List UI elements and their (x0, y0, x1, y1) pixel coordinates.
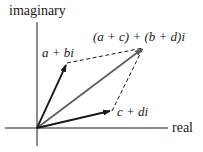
real-axis-label: real (172, 120, 193, 136)
dashed-edge-z2-to-sum (112, 48, 143, 111)
vector-c-di-label: c + di (117, 104, 148, 120)
imaginary-axis-label: imaginary (9, 3, 66, 19)
vector-sum-label: (a + c) + (b + d)i (93, 29, 185, 45)
vector-a-bi-arrow (37, 65, 66, 128)
dashed-edge-z1-to-sum (67, 48, 143, 63)
vector-a-bi-label: a + bi (42, 45, 74, 61)
complex-addition-diagram: imaginary real a + bi c + di (a + c) + (… (0, 0, 203, 152)
